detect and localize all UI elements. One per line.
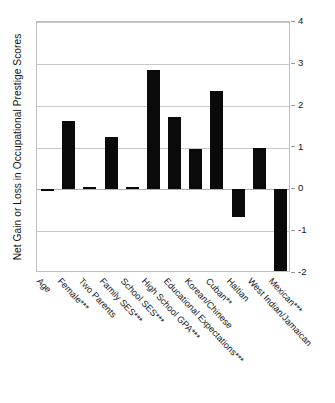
y-tick-label: 0 bbox=[291, 182, 303, 194]
plot-area bbox=[36, 21, 290, 272]
y-tick-label: 4 bbox=[291, 15, 303, 27]
y-axis-title: Net Gain or Loss in Occupational Prestig… bbox=[12, 34, 23, 261]
y-tick-text: -1 bbox=[298, 224, 307, 235]
y-tick-label: 1 bbox=[291, 141, 303, 153]
bar bbox=[83, 187, 96, 190]
bar bbox=[253, 148, 266, 189]
bar-series bbox=[37, 22, 289, 271]
y-tick-text: 1 bbox=[298, 141, 303, 152]
bar bbox=[210, 91, 223, 189]
y-tick-label: 2 bbox=[291, 99, 303, 111]
y-tick-mark bbox=[291, 230, 295, 231]
bar bbox=[274, 189, 287, 272]
bar bbox=[62, 121, 75, 189]
y-tick-text: 0 bbox=[298, 182, 303, 193]
y-tick-label: -1 bbox=[291, 224, 307, 236]
chart-figure: Net Gain or Loss in Occupational Prestig… bbox=[0, 0, 335, 403]
bar bbox=[105, 137, 118, 189]
y-tick-mark bbox=[291, 188, 295, 189]
x-tick-label: Age bbox=[34, 276, 52, 295]
bar bbox=[126, 187, 139, 190]
bar bbox=[232, 189, 245, 216]
y-tick-mark bbox=[291, 21, 295, 22]
bar bbox=[41, 189, 54, 191]
y-tick-label: 3 bbox=[291, 57, 303, 69]
y-tick-mark bbox=[291, 146, 295, 147]
y-tick-mark bbox=[291, 63, 295, 64]
y-tick-text: 2 bbox=[298, 99, 303, 110]
y-tick-mark bbox=[291, 105, 295, 106]
bar bbox=[189, 149, 202, 190]
y-axis-title-container: Net Gain or Loss in Occupational Prestig… bbox=[6, 21, 28, 273]
y-tick-text: 4 bbox=[298, 15, 303, 26]
bar bbox=[147, 70, 160, 189]
y-axis-tick-labels: 43210-1-2 bbox=[291, 21, 335, 272]
x-axis-tick-labels: AgeFemale***Two ParentsFamily SES***Scho… bbox=[0, 274, 335, 403]
y-tick-mark bbox=[291, 272, 295, 273]
y-tick-text: 3 bbox=[298, 57, 303, 68]
bar bbox=[168, 117, 181, 189]
